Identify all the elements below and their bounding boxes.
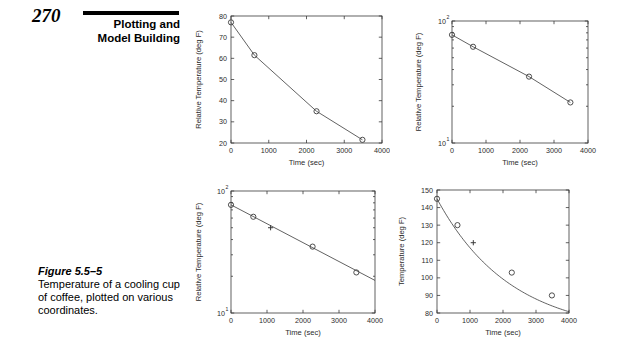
x-axis-label: Time (sec) (285, 328, 321, 337)
svg-text:4000: 4000 (374, 146, 390, 155)
x-axis-label: Time (sec) (485, 328, 521, 337)
header-rule-divider (83, 11, 179, 15)
svg-text:140: 140 (421, 203, 433, 212)
svg-text:2000: 2000 (512, 146, 528, 155)
svg-text:3000: 3000 (528, 316, 544, 325)
svg-text:110: 110 (422, 256, 433, 265)
x-axis-label: Time (sec) (502, 158, 538, 167)
svg-text:3000: 3000 (546, 146, 562, 155)
chart-top-left: 0100020003000400020304050607080Time (sec… (190, 0, 390, 172)
figure-caption-text: Temperature of a cooling cup of coffee, … (38, 278, 188, 317)
svg-text:30: 30 (219, 117, 227, 126)
page-title-line-2: Model Building (98, 32, 180, 44)
svg-text:10: 10 (438, 139, 446, 148)
svg-text:4000: 4000 (580, 146, 596, 155)
svg-text:120: 120 (421, 238, 433, 247)
svg-text:60: 60 (219, 54, 227, 63)
figure-caption-label: Figure 5.5–5 (38, 265, 188, 277)
svg-text:0: 0 (229, 146, 233, 155)
page-header: 270 Plotting and Model Building (0, 0, 200, 60)
svg-text:80: 80 (425, 309, 433, 318)
svg-text:1000: 1000 (462, 316, 478, 325)
svg-text:2: 2 (447, 14, 450, 20)
svg-text:100: 100 (421, 273, 433, 282)
svg-text:3000: 3000 (336, 146, 352, 155)
svg-text:2000: 2000 (299, 146, 315, 155)
svg-text:3000: 3000 (331, 316, 347, 325)
svg-text:150: 150 (421, 186, 433, 195)
svg-text:1000: 1000 (259, 316, 275, 325)
svg-text:1: 1 (447, 136, 450, 142)
svg-text:40: 40 (219, 96, 227, 105)
chart-top-right: 01000200030004000101102Time (sec)Relativ… (410, 0, 625, 172)
svg-text:10: 10 (217, 187, 225, 196)
svg-text:0: 0 (435, 316, 439, 325)
chart-bottom-left: 01000200030004000101102Time (sec)Relativ… (190, 172, 390, 345)
svg-text:130: 130 (421, 221, 433, 230)
y-axis-label: Temperature (deg F) (397, 216, 406, 286)
x-axis-label: Time (sec) (289, 158, 325, 167)
svg-text:2000: 2000 (295, 316, 311, 325)
svg-text:90: 90 (425, 291, 433, 300)
svg-text:20: 20 (219, 139, 227, 148)
page-number: 270 (32, 5, 61, 27)
figure-caption: Figure 5.5–5 Temperature of a cooling cu… (38, 265, 188, 317)
svg-text:1000: 1000 (478, 146, 494, 155)
y-axis-label: Relative Temperature (deg F) (414, 32, 423, 131)
svg-text:1000: 1000 (261, 146, 277, 155)
page-title-line-1: Plotting and (114, 18, 180, 30)
svg-text:4000: 4000 (561, 316, 577, 325)
svg-text:2: 2 (226, 184, 229, 190)
svg-text:0: 0 (229, 316, 233, 325)
svg-text:80: 80 (219, 12, 227, 21)
svg-text:0: 0 (450, 146, 454, 155)
svg-text:50: 50 (219, 75, 227, 84)
page-title: Plotting and Model Building (60, 18, 180, 45)
svg-text:2000: 2000 (495, 316, 511, 325)
svg-text:1: 1 (226, 306, 229, 312)
y-axis-label: Relative Temperature (deg F) (194, 30, 203, 129)
chart-bottom-right: 010002000300040008090100110120130140150T… (395, 172, 625, 345)
svg-text:4000: 4000 (367, 316, 383, 325)
svg-text:10: 10 (438, 17, 446, 26)
svg-text:10: 10 (217, 309, 225, 318)
svg-text:70: 70 (219, 33, 227, 42)
y-axis-label: Relative Temperature (deg F) (194, 202, 203, 301)
